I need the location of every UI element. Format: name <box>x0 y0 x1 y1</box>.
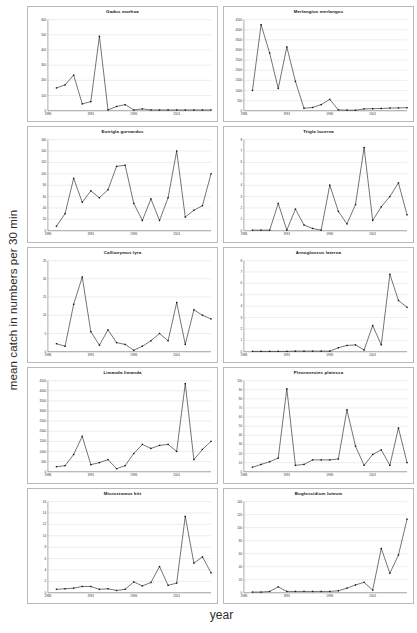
x-axis-label-text: year <box>210 608 233 622</box>
svg-text:4: 4 <box>241 184 243 188</box>
svg-text:1986: 1986 <box>240 112 247 116</box>
svg-text:1996: 1996 <box>326 112 333 116</box>
plot-area: 0123456781986199119962001 <box>224 248 413 362</box>
svg-text:1000: 1000 <box>235 89 242 93</box>
svg-text:4: 4 <box>241 304 243 308</box>
svg-text:3: 3 <box>241 195 243 199</box>
svg-text:20: 20 <box>239 452 243 456</box>
svg-text:100: 100 <box>237 525 242 529</box>
svg-text:6: 6 <box>241 281 243 285</box>
svg-text:70: 70 <box>239 406 243 410</box>
svg-text:2001: 2001 <box>369 112 376 116</box>
svg-text:6: 6 <box>241 161 243 165</box>
svg-text:1996: 1996 <box>130 594 137 598</box>
svg-text:100: 100 <box>41 172 46 176</box>
svg-text:1991: 1991 <box>283 594 290 598</box>
plot-area: 0500100015002000250030003500400045001986… <box>28 368 217 482</box>
x-axis-label: year <box>26 608 417 622</box>
chart-panel: Eutrigla gurnardus0204060801001201401601… <box>27 126 218 242</box>
svg-text:3000: 3000 <box>39 409 46 413</box>
svg-text:4500: 4500 <box>39 379 46 383</box>
svg-text:15: 15 <box>43 295 47 299</box>
svg-text:1986: 1986 <box>240 594 247 598</box>
svg-text:500: 500 <box>237 99 242 103</box>
plot-area: 05101520251986199119962001 <box>28 248 217 362</box>
svg-text:40: 40 <box>43 206 47 210</box>
chart-panel: Gadus morhua0100200300400500600198619911… <box>27 6 218 122</box>
svg-text:1986: 1986 <box>240 353 247 357</box>
svg-text:2500: 2500 <box>235 58 242 62</box>
svg-text:40: 40 <box>239 564 243 568</box>
svg-text:16: 16 <box>43 499 47 503</box>
svg-text:4: 4 <box>45 568 47 572</box>
svg-text:1996: 1996 <box>326 594 333 598</box>
svg-text:2000: 2000 <box>39 430 46 434</box>
svg-text:3: 3 <box>241 315 243 319</box>
svg-text:1986: 1986 <box>240 232 247 236</box>
svg-text:1996: 1996 <box>326 232 333 236</box>
svg-text:8: 8 <box>45 545 47 549</box>
svg-text:1986: 1986 <box>44 232 51 236</box>
svg-text:1500: 1500 <box>235 78 242 82</box>
svg-text:25: 25 <box>43 259 47 263</box>
svg-text:1991: 1991 <box>283 112 290 116</box>
figure-panel-grid: mean catch in numbers per 30 min Gadus m… <box>0 0 417 633</box>
svg-text:80: 80 <box>239 538 243 542</box>
svg-text:10: 10 <box>43 313 47 317</box>
svg-text:1991: 1991 <box>87 473 94 477</box>
svg-text:1986: 1986 <box>44 112 51 116</box>
svg-text:10: 10 <box>43 533 47 537</box>
svg-text:80: 80 <box>239 397 243 401</box>
svg-text:2001: 2001 <box>369 232 376 236</box>
svg-text:300: 300 <box>41 63 46 67</box>
svg-text:100: 100 <box>237 379 242 383</box>
svg-text:3500: 3500 <box>39 399 46 403</box>
svg-text:600: 600 <box>41 18 46 22</box>
svg-text:5: 5 <box>45 331 47 335</box>
svg-text:1991: 1991 <box>87 112 94 116</box>
svg-text:1986: 1986 <box>240 473 247 477</box>
svg-text:3000: 3000 <box>235 48 242 52</box>
svg-text:90: 90 <box>239 388 243 392</box>
svg-text:160: 160 <box>41 138 46 142</box>
chart-panel: Pleuronectes platessa0102030405060708090… <box>223 367 414 483</box>
svg-text:120: 120 <box>237 512 242 516</box>
svg-text:1991: 1991 <box>283 232 290 236</box>
svg-text:2001: 2001 <box>173 353 180 357</box>
svg-text:1991: 1991 <box>283 353 290 357</box>
svg-text:2001: 2001 <box>369 353 376 357</box>
svg-text:500: 500 <box>41 460 46 464</box>
chart-panel: Buglossidium luteum020406080100120140198… <box>223 488 414 604</box>
svg-text:5: 5 <box>241 172 243 176</box>
plot-area: 0204060801001201401986199119962001 <box>224 489 413 603</box>
svg-text:1996: 1996 <box>326 473 333 477</box>
svg-text:1996: 1996 <box>130 473 137 477</box>
svg-text:1000: 1000 <box>39 450 46 454</box>
svg-text:12: 12 <box>43 522 47 526</box>
chart-panel: Microstomus kitt024681012141619861991199… <box>27 488 218 604</box>
svg-text:7: 7 <box>241 270 243 274</box>
svg-text:1: 1 <box>241 338 243 342</box>
svg-text:14: 14 <box>43 511 47 515</box>
svg-text:2: 2 <box>241 327 243 331</box>
svg-text:1996: 1996 <box>130 112 137 116</box>
svg-text:2001: 2001 <box>173 112 180 116</box>
svg-text:60: 60 <box>239 415 243 419</box>
svg-text:6: 6 <box>45 556 47 560</box>
plot-area: 02468101214161986199119962001 <box>28 489 217 603</box>
svg-text:60: 60 <box>43 195 47 199</box>
plot-area: 0500100015002000250030003500400045001986… <box>224 7 413 121</box>
chart-panel: Trigla lucerna0123456781986199119962001 <box>223 126 414 242</box>
chart-panel: Arnoglossus laterna012345678198619911996… <box>223 247 414 363</box>
chart-panel: Limanda limanda0500100015002000250030003… <box>27 367 218 483</box>
svg-text:4500: 4500 <box>235 18 242 22</box>
svg-text:500: 500 <box>41 33 46 37</box>
svg-text:30: 30 <box>239 443 243 447</box>
svg-text:400: 400 <box>41 48 46 52</box>
svg-text:40: 40 <box>239 434 243 438</box>
svg-text:1996: 1996 <box>130 232 137 236</box>
svg-text:2001: 2001 <box>369 473 376 477</box>
svg-text:10: 10 <box>239 461 243 465</box>
svg-text:20: 20 <box>43 218 47 222</box>
svg-text:1991: 1991 <box>283 473 290 477</box>
